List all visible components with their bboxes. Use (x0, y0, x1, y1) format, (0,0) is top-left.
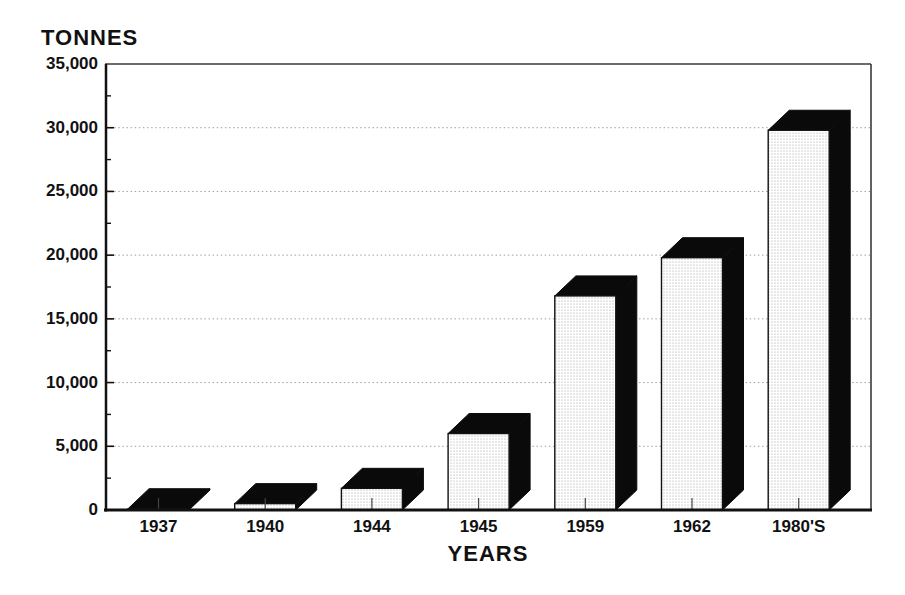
x-axis-label: 1937 (109, 518, 209, 536)
x-axis-label: 1959 (535, 518, 635, 536)
y-axis-label: 30,000 (0, 119, 98, 137)
bar-top-face-1937 (128, 489, 210, 509)
x-axis-label: 1944 (322, 518, 422, 536)
x-axis-label: 1962 (642, 518, 742, 536)
x-axis-label: 1980'S (749, 518, 849, 536)
y-axis-label: 15,000 (0, 310, 98, 328)
y-axis-label: 5,000 (0, 437, 98, 455)
bar-side-face-1959 (616, 276, 637, 510)
bar-side-face-1980'S (829, 110, 850, 510)
bar-front-face-1959 (555, 296, 616, 510)
x-axis-label: 1945 (429, 518, 529, 536)
bar-side-face-1962 (723, 238, 744, 510)
y-axis-label: 0 (0, 501, 98, 519)
x-axis-label: 1940 (215, 518, 315, 536)
plot-area (0, 0, 905, 595)
x-axis-title: YEARS (428, 541, 548, 567)
y-axis-label: 10,000 (0, 374, 98, 392)
bar-front-face-1980'S (768, 130, 829, 510)
bar-chart-page: TONNES 05,00010,00015,00020,00025,00030,… (0, 0, 905, 595)
bar-front-face-1962 (662, 258, 723, 510)
y-axis-label: 35,000 (0, 55, 98, 73)
y-axis-label: 20,000 (0, 246, 98, 264)
y-axis-label: 25,000 (0, 182, 98, 200)
